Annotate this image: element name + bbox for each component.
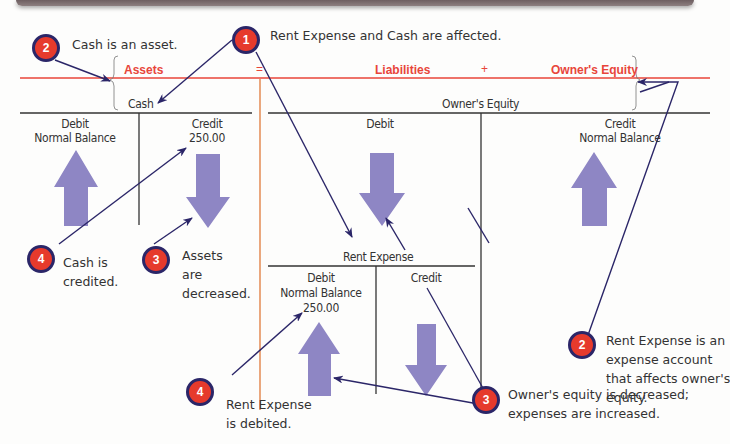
step-3b-note: Owner's equity is decreased; expenses ar… [508, 385, 689, 423]
increase-arrow [571, 152, 617, 226]
cash-credit-label: Credit [180, 117, 234, 131]
equals-sign: = [256, 62, 263, 76]
step-4b-badge: 4 [186, 378, 214, 406]
decrease-arrow [405, 324, 447, 396]
cash-credit-amount: 250.00 [180, 131, 234, 145]
step-1-badge: 1 [232, 26, 260, 54]
cash-debit-normal-balance: Normal Balance [20, 131, 130, 145]
plus-sign: + [481, 62, 488, 76]
rent-expense-credit-label: Credit [396, 271, 456, 285]
owners-equity-account-title: Owner's Equity [442, 97, 519, 111]
owners-equity-heading: Owner's Equity [551, 63, 638, 77]
liabilities-heading: Liabilities [375, 63, 430, 77]
increase-arrow [298, 322, 340, 396]
step-4b-note: Rent Expense is debited. [226, 395, 312, 433]
step-4-badge: 4 [27, 245, 55, 273]
rent-expense-debit-amount: 250.00 [296, 301, 346, 315]
cash-account-title: Cash [128, 97, 153, 111]
owners-equity-debit-label: Debit [340, 117, 420, 131]
step-1-note: Rent Expense and Cash are affected. [270, 26, 501, 45]
increase-arrow [54, 150, 98, 226]
cash-debit-label: Debit [20, 117, 130, 131]
step-3-badge: 3 [142, 246, 170, 274]
step-2-badge: 2 [32, 34, 60, 62]
owners-equity-credit-label: Credit [560, 117, 680, 131]
decrease-arrow [186, 154, 230, 228]
rent-expense-debit-normal-balance: Normal Balance [268, 286, 374, 300]
rent-expense-account-title: Rent Expense [343, 250, 413, 264]
step-3b-badge: 3 [472, 386, 500, 414]
owners-equity-credit-normal-balance: Normal Balance [560, 131, 680, 145]
step-2b-badge: 2 [568, 331, 596, 359]
step-4-note: Cash is credited. [63, 253, 118, 291]
assets-heading: Assets [124, 63, 163, 77]
step-3-note: Assets are decreased. [182, 246, 251, 303]
step-2-note: Cash is an asset. [72, 35, 178, 54]
assets-bracket [110, 56, 118, 110]
rent-expense-debit-label: Debit [268, 271, 374, 285]
decrease-arrow [359, 153, 405, 226]
